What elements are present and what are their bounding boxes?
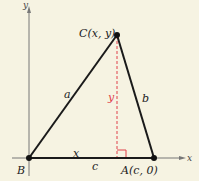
x-axis-label: x <box>187 153 192 163</box>
side-b-label: b <box>142 92 149 105</box>
vertex-a-dot <box>151 155 157 161</box>
vertex-a-label: A(c, 0) <box>120 164 158 177</box>
triangle-diagram: y x C(x, y) B A(c, 0) a b c x y <box>0 0 199 181</box>
side-c-label: c <box>92 160 98 173</box>
diagram-canvas: y x C(x, y) B A(c, 0) a b c x y <box>0 0 199 181</box>
x-axis-arrow-icon <box>179 156 186 160</box>
segment-x-label: x <box>73 147 80 160</box>
altitude-y-label: y <box>107 91 115 104</box>
vertex-b-label: B <box>16 164 25 177</box>
right-angle-marker-icon <box>117 150 126 158</box>
triangle <box>29 35 154 158</box>
side-a-label: a <box>64 88 71 101</box>
y-axis-label: y <box>22 0 29 10</box>
vertex-b-dot <box>26 155 32 161</box>
vertex-c-label: C(x, y) <box>79 27 115 40</box>
side-a <box>29 35 117 158</box>
